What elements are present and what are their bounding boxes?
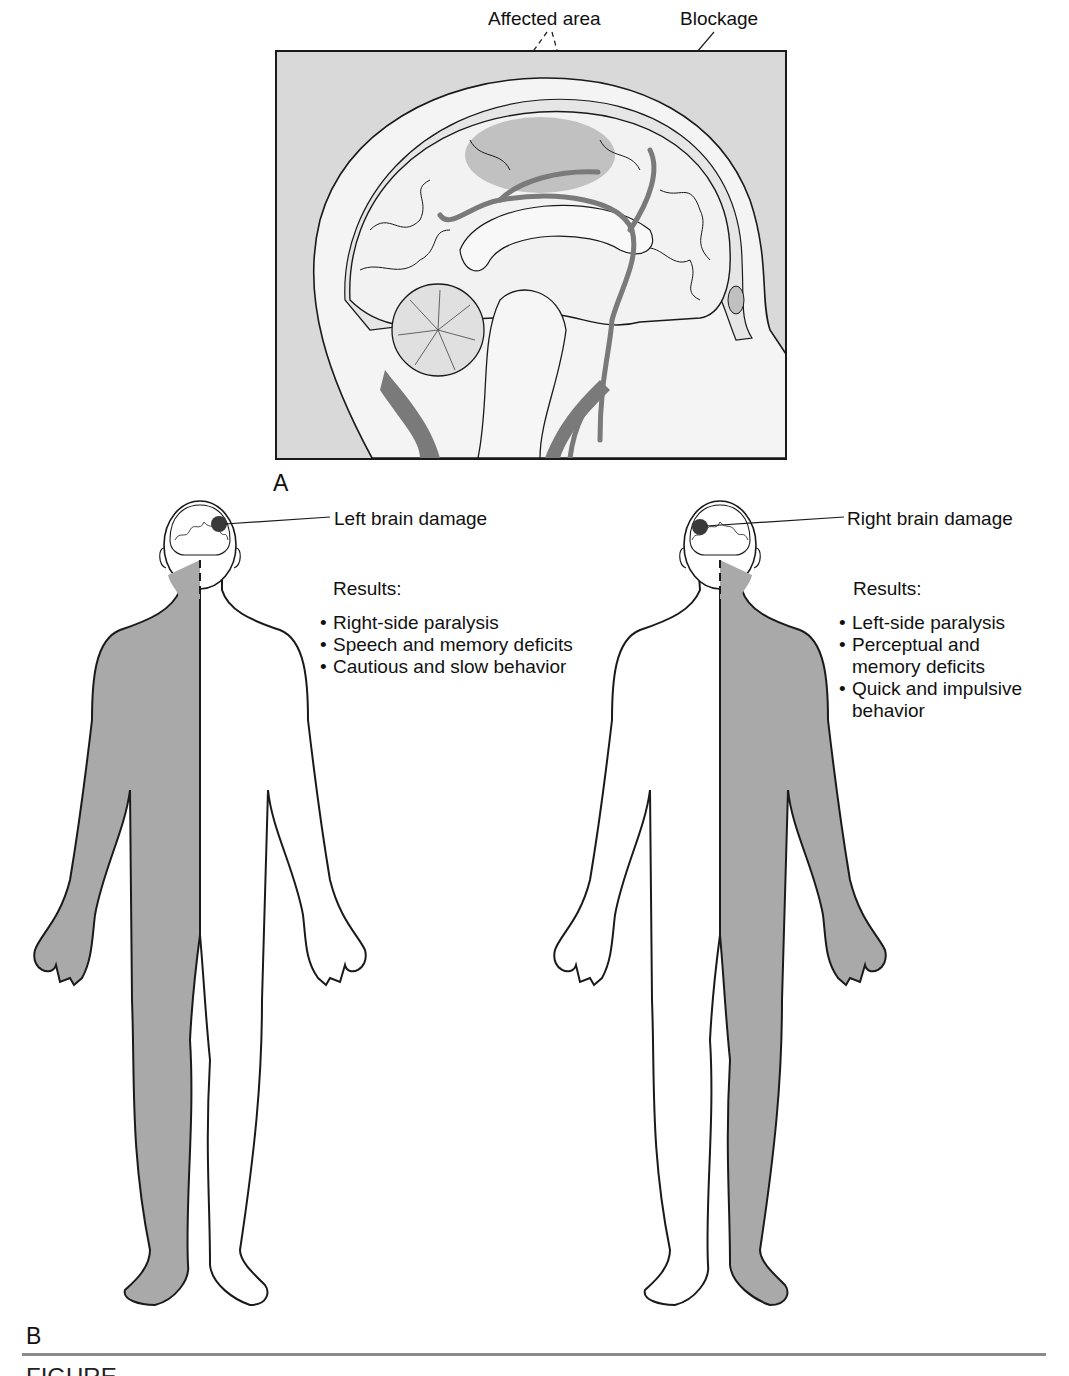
right-result-item: Left-side paralysis [839,612,1059,634]
right-results-title: Results: [853,578,1059,600]
right-results-block: Results: Left-side paralysis Perceptual … [839,578,1059,722]
affected-region [465,117,615,193]
caption-divider [22,1353,1046,1356]
right-brain-damage-label: Right brain damage [847,508,1013,530]
panel-b-letter: B [26,1323,41,1350]
right-results-list: Left-side paralysis Perceptual and memor… [839,612,1059,722]
right-result-item: Perceptual and memory deficits [839,634,1022,678]
lesion-marker [692,519,708,535]
lesion-marker [211,516,227,532]
paralyzed-half-left-figure [34,520,200,1305]
left-callout-line [225,517,330,524]
caption-fragment: FIGURE [26,1364,117,1376]
left-brain-damage-label: Left brain damage [334,508,487,530]
brain-sagittal-illustration [0,0,1069,500]
right-result-item: Quick and impulsive behavior [839,678,1062,722]
